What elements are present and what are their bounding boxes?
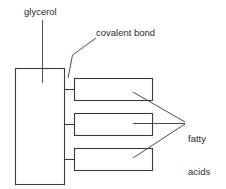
fatty-acid-box-1: [75, 79, 153, 101]
fatty-acids-label-line-2: acids: [188, 166, 210, 177]
fatty-acids-label: fatty acids: [188, 111, 210, 189]
glycerol-box: [16, 69, 65, 185]
covalent-bond-label: covalent bond: [96, 27, 155, 38]
fatty-acid-box-3: [75, 149, 153, 171]
covalent-bond-leader-line: [68, 38, 96, 78]
fatty-acid-box-2: [75, 114, 153, 136]
diagram-canvas: glycerol covalent bond fatty acids: [0, 0, 226, 189]
glycerol-label: glycerol: [24, 6, 57, 17]
fatty-acids-label-line-1: fatty: [188, 133, 210, 144]
